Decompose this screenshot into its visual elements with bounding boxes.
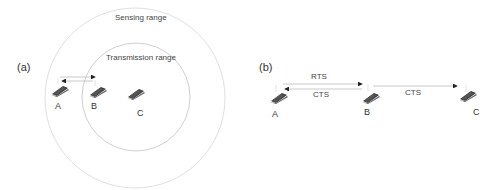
node-b-label: B [91, 101, 97, 111]
panel-a-label: (a) [17, 61, 30, 73]
node-a-label: A [55, 101, 61, 111]
cts-label-bc: CTS [405, 88, 421, 97]
rts-label: RTS [311, 72, 327, 81]
laptop-icon-b-c [459, 91, 477, 102]
cts-label-ab: CTS [313, 90, 329, 99]
node-b-b-label: B [364, 107, 370, 117]
node-c-label: C [137, 108, 144, 118]
node-b-a-label: A [272, 109, 278, 119]
laptop-icon-b-b [362, 93, 380, 104]
laptop-icon-b-a [270, 93, 288, 104]
panel-b-label: (b) [259, 61, 272, 73]
laptop-icon-a [51, 86, 69, 97]
transmission-range-label: Transmission range [106, 53, 176, 62]
laptop-icon-b [89, 87, 107, 98]
laptop-icon-c [127, 89, 145, 100]
node-b-c-label: C [473, 107, 480, 117]
sensing-range-label: Sensing range [115, 13, 167, 22]
